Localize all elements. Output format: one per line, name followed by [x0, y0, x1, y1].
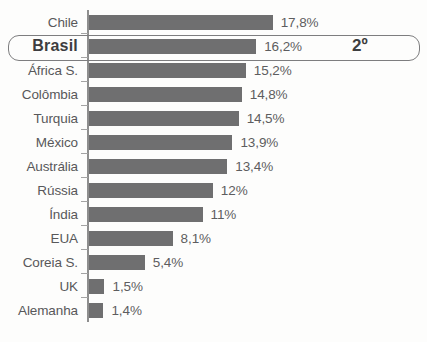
- category-label: Austrália: [0, 159, 78, 174]
- bar-value-label: 14,5%: [247, 111, 285, 126]
- category-label: Chile: [0, 15, 78, 30]
- axis-tick: [81, 273, 88, 274]
- bar: [89, 279, 104, 294]
- bar-row: Turquia14,5%: [0, 106, 427, 130]
- bar-value-label: 5,4%: [153, 255, 183, 270]
- bar: [89, 15, 273, 30]
- bar-chart: Chile17,8%Brasil16,2%2ºÁfrica S.15,2%Col…: [0, 0, 427, 342]
- category-label: EUA: [0, 231, 78, 246]
- bar-value-label: 1,5%: [112, 279, 142, 294]
- bar-value-label: 15,2%: [254, 63, 292, 78]
- bar-value-label: 1,4%: [111, 303, 141, 318]
- bar: [89, 111, 239, 126]
- highlight-box-brasil: [8, 35, 420, 61]
- axis-tick: [81, 201, 88, 202]
- category-label: Alemanha: [0, 303, 78, 318]
- bar-value-label: 12%: [221, 183, 248, 198]
- bar-row: UK1,5%: [0, 274, 427, 298]
- category-label: Rússia: [0, 183, 78, 198]
- axis-tick: [81, 249, 88, 250]
- bar: [89, 159, 227, 174]
- bar: [89, 135, 232, 150]
- bar-row: EUA8,1%: [0, 226, 427, 250]
- axis-tick: [81, 81, 88, 82]
- category-label: África S.: [0, 63, 78, 78]
- bar-row: Chile17,8%: [0, 10, 427, 34]
- bar-value-label: 17,8%: [281, 15, 319, 30]
- bar: [89, 303, 103, 318]
- category-label: UK: [0, 279, 78, 294]
- bar-value-label: 14,8%: [250, 87, 288, 102]
- bar-value-label: 13,4%: [235, 159, 273, 174]
- axis-tick: [81, 225, 88, 226]
- bar-row: Rússia12%: [0, 178, 427, 202]
- bar-row: Austrália13,4%: [0, 154, 427, 178]
- bar: [89, 207, 203, 222]
- bar-row: Colômbia14,8%: [0, 82, 427, 106]
- category-label: México: [0, 135, 78, 150]
- category-label: Colômbia: [0, 87, 78, 102]
- axis-tick: [81, 297, 88, 298]
- bar-row: Índia11%: [0, 202, 427, 226]
- axis-tick: [81, 129, 88, 130]
- bar-row: Alemanha1,4%: [0, 298, 427, 322]
- bar-value-label: 11%: [211, 207, 237, 222]
- bar-row: África S.15,2%: [0, 58, 427, 82]
- category-label: Turquia: [0, 111, 78, 126]
- bar: [89, 255, 145, 270]
- axis-tick: [81, 33, 88, 34]
- plot-area: Chile17,8%Brasil16,2%2ºÁfrica S.15,2%Col…: [0, 0, 427, 342]
- bar: [89, 87, 242, 102]
- bar-value-label: 13,9%: [240, 135, 278, 150]
- bar-row: México13,9%: [0, 130, 427, 154]
- category-label: Índia: [0, 207, 78, 222]
- bar-row: Coreia S.5,4%: [0, 250, 427, 274]
- bar: [89, 183, 213, 198]
- bar: [89, 63, 246, 78]
- axis-tick: [81, 153, 88, 154]
- bar: [89, 231, 173, 246]
- axis-tick: [81, 105, 88, 106]
- axis-tick: [81, 177, 88, 178]
- bar-value-label: 8,1%: [181, 231, 211, 246]
- category-label: Coreia S.: [0, 255, 78, 270]
